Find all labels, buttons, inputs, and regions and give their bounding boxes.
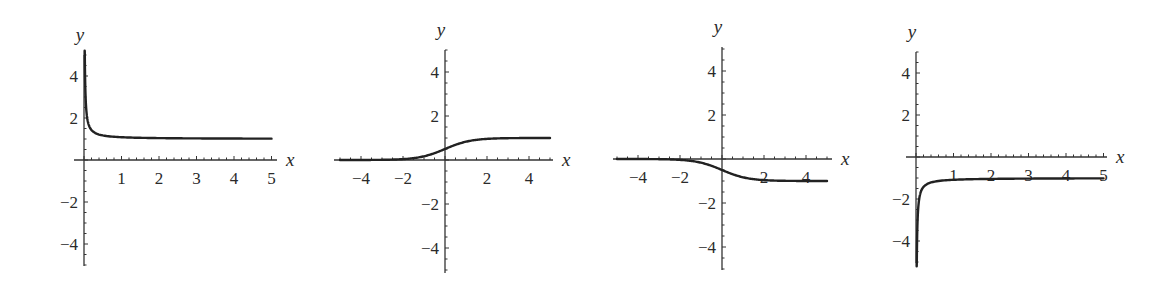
x-axis-label: x	[561, 149, 571, 170]
x-tick-label: 4	[230, 169, 239, 188]
x-tick-label: 4	[802, 168, 811, 187]
x-tick-label: 1	[117, 169, 126, 188]
y-tick-label: 4	[708, 62, 717, 81]
y-tick-label: −4	[698, 238, 717, 257]
x-tick-label: 5	[1099, 166, 1108, 185]
plot-3: −4−22442−2−4xy	[613, 16, 850, 270]
y-tick-label: 2	[708, 106, 717, 125]
x-axis-label: x	[840, 148, 850, 169]
plot-4: 1234542−2−4xy	[892, 21, 1125, 266]
x-tick-label: 4	[1062, 166, 1071, 185]
x-tick-label: 2	[987, 166, 996, 185]
x-tick-label: 2	[760, 168, 769, 187]
x-tick-label: 2	[155, 169, 164, 188]
x-tick-label: 3	[192, 169, 201, 188]
x-tick-label: −2	[671, 168, 689, 187]
x-tick-label: 3	[1024, 166, 1033, 185]
x-tick-label: 5	[267, 169, 276, 188]
y-tick-label: −2	[698, 194, 716, 213]
y-tick-label: 2	[70, 109, 79, 128]
x-axis-label: x	[1115, 146, 1125, 167]
x-tick-label: 1	[949, 166, 958, 185]
y-tick-label: −2	[60, 193, 78, 212]
function-curve	[85, 51, 272, 139]
x-tick-label: −4	[352, 169, 371, 188]
function-curve	[917, 178, 1104, 266]
y-tick-label: 2	[431, 107, 440, 126]
y-tick-label: 2	[902, 106, 911, 125]
y-tick-label: −2	[892, 190, 910, 209]
y-tick-label: 4	[902, 64, 911, 83]
y-axis-label: y	[906, 21, 917, 42]
y-tick-label: −2	[421, 195, 439, 214]
y-tick-label: −4	[421, 239, 440, 258]
y-tick-label: −4	[60, 235, 79, 254]
y-axis-label: y	[435, 19, 446, 40]
x-tick-label: −4	[629, 168, 648, 187]
y-axis-label: y	[74, 24, 85, 45]
plot-2: −4−22442−2−4xy	[334, 19, 571, 273]
x-tick-label: 4	[525, 169, 534, 188]
plot-1: 1234542−2−4xy	[60, 24, 295, 266]
y-tick-label: −4	[892, 232, 911, 251]
x-tick-label: 2	[483, 169, 492, 188]
figure: 1234542−2−4xy −4−22442−2−4xy −4−22442−2−…	[0, 0, 1176, 285]
y-tick-label: 4	[431, 63, 440, 82]
x-axis-label: x	[285, 149, 295, 170]
x-tick-label: −2	[394, 169, 412, 188]
y-tick-label: 4	[70, 67, 79, 86]
y-axis-label: y	[712, 16, 723, 37]
